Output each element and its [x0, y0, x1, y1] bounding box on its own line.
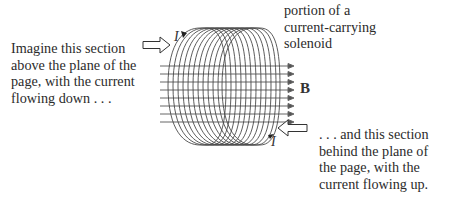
top-caption: portion of a current-carrying solenoid: [284, 2, 376, 52]
magnetic-field-lines: [160, 64, 294, 125]
right-caption-line: . . . and this section: [319, 126, 429, 143]
right-caption-line: current flowing up.: [319, 176, 429, 193]
hollow-arrow-right-icon: [143, 37, 170, 53]
magnetic-field-label: B: [300, 80, 310, 97]
right-caption-line: the page, with the: [319, 159, 429, 176]
solenoid-coils: [168, 28, 280, 145]
left-caption: Imagine this section above the plane of …: [11, 40, 136, 106]
left-caption-line: Imagine this section: [11, 40, 136, 57]
left-caption-line: page, with the current: [11, 73, 136, 90]
current-label-bottom: I: [271, 134, 276, 150]
right-caption-line: behind the plane of: [319, 143, 429, 160]
left-caption-line: flowing down . . .: [11, 90, 136, 107]
top-caption-line: solenoid: [284, 35, 376, 52]
top-caption-line: current-carrying: [284, 19, 376, 36]
top-caption-line: portion of a: [284, 2, 376, 19]
right-caption: . . . and this section behind the plane …: [319, 126, 429, 192]
left-caption-line: above the plane of the: [11, 57, 136, 74]
current-label-top: I: [174, 29, 179, 45]
